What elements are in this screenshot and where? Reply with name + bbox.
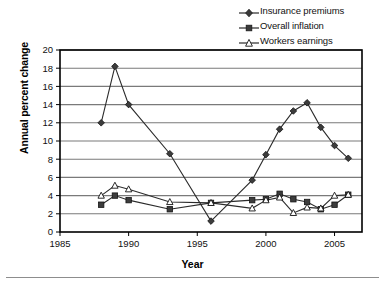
x-axis-title: Year	[0, 258, 385, 270]
svg-text:2: 2	[48, 208, 53, 219]
svg-text:1995: 1995	[187, 238, 208, 249]
series-lines	[101, 66, 348, 221]
y-axis-ticks: 02468101214161820	[42, 44, 60, 237]
svg-text:4: 4	[48, 190, 53, 201]
chart-canvas: 02468101214161820 19851990199520002005	[0, 40, 385, 250]
diamond-marker-icon	[238, 5, 260, 17]
svg-text:20: 20	[42, 44, 53, 55]
svg-text:0: 0	[48, 226, 53, 237]
x-axis-ticks: 19851990199520002005	[49, 232, 345, 249]
series-markers	[98, 63, 352, 224]
svg-text:12: 12	[42, 117, 53, 128]
legend-item-overall-inflation: Overall inflation	[238, 19, 383, 33]
svg-text:2000: 2000	[255, 238, 276, 249]
y-axis-title: Annual percent change	[18, 28, 30, 168]
footer-divider	[6, 277, 379, 278]
legend-label-overall-inflation: Overall inflation	[260, 20, 324, 32]
svg-text:18: 18	[42, 63, 53, 74]
svg-text:8: 8	[48, 154, 53, 165]
line-chart: 02468101214161820 19851990199520002005	[0, 40, 385, 250]
svg-text:6: 6	[48, 172, 53, 183]
svg-text:16: 16	[42, 81, 53, 92]
square-marker-icon	[238, 20, 260, 32]
svg-text:1990: 1990	[118, 238, 139, 249]
svg-text:2005: 2005	[324, 238, 345, 249]
gridlines	[60, 50, 362, 214]
legend-label-insurance-premiums: Insurance premiums	[260, 5, 344, 17]
svg-text:14: 14	[42, 99, 53, 110]
svg-text:1985: 1985	[49, 238, 70, 249]
legend-item-insurance-premiums: Insurance premiums	[238, 4, 383, 18]
svg-text:10: 10	[42, 135, 53, 146]
